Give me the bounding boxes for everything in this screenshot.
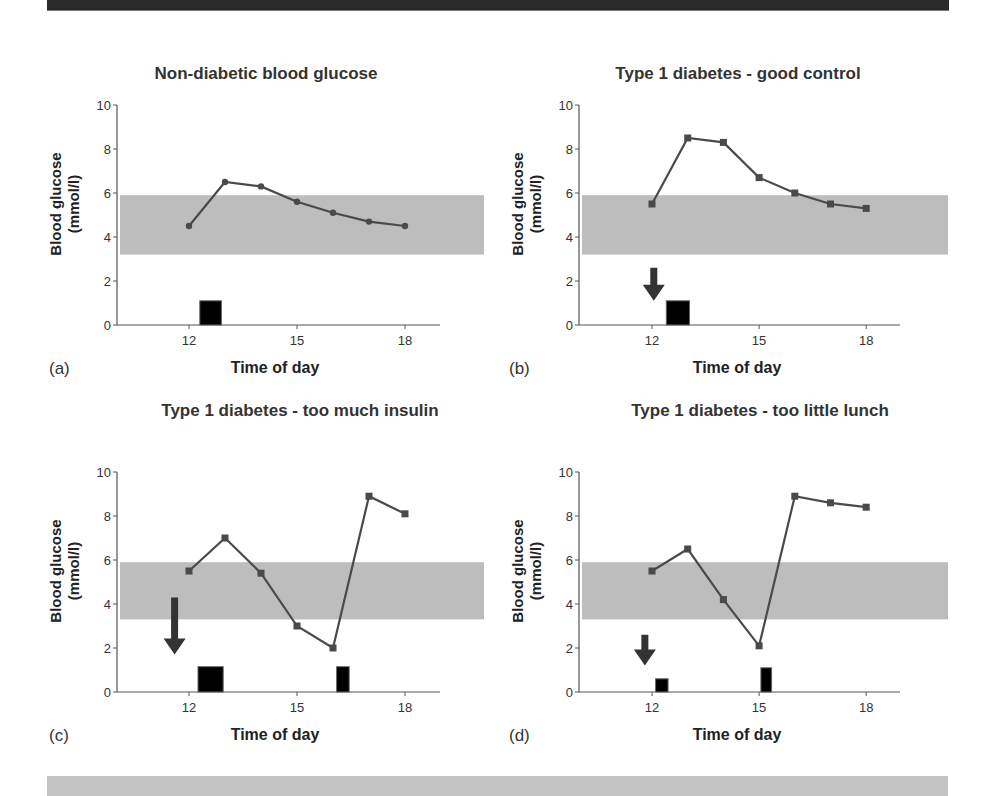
x-tick-label: 15: [290, 700, 304, 715]
y-tick-label: 4: [566, 597, 573, 612]
data-point: [649, 201, 656, 208]
meal-bar: [656, 679, 668, 692]
data-point: [222, 179, 228, 185]
y-tick-label: 0: [104, 318, 111, 333]
y-tick-label: 4: [104, 230, 111, 245]
plots-canvas: 0246810121518 0246810121518 024681012151…: [0, 0, 993, 796]
data-point: [186, 568, 193, 575]
meal-bar: [198, 667, 223, 692]
data-point: [649, 568, 656, 575]
chart-c: 0246810121518: [97, 465, 484, 716]
data-point: [294, 199, 300, 205]
x-tick-label: 12: [182, 700, 196, 715]
y-tick-label: 8: [104, 509, 111, 524]
insulin-arrow-icon: [643, 268, 665, 301]
data-point: [827, 201, 834, 208]
y-tick-label: 6: [104, 553, 111, 568]
y-tick-label: 8: [104, 142, 111, 157]
data-point: [402, 223, 408, 229]
x-tick-label: 18: [859, 333, 873, 348]
normal-range-band: [582, 562, 948, 619]
y-tick-label: 6: [104, 186, 111, 201]
y-tick-label: 10: [97, 465, 111, 480]
meal-bar: [761, 668, 772, 692]
y-tick-label: 2: [566, 274, 573, 289]
data-point: [294, 623, 301, 630]
data-point: [791, 190, 798, 197]
data-point: [684, 546, 691, 553]
y-tick-label: 10: [559, 465, 573, 480]
x-tick-label: 15: [752, 333, 766, 348]
y-tick-label: 2: [104, 274, 111, 289]
y-tick-label: 8: [566, 142, 573, 157]
x-tick-label: 18: [398, 700, 412, 715]
meal-bar: [666, 301, 689, 325]
data-point: [186, 223, 192, 229]
data-point: [756, 174, 763, 181]
data-point: [330, 645, 337, 652]
data-point: [366, 218, 372, 224]
data-point: [258, 183, 264, 189]
x-tick-label: 12: [645, 700, 659, 715]
y-tick-label: 4: [104, 597, 111, 612]
data-point: [863, 504, 870, 511]
insulin-arrow-icon: [634, 635, 656, 666]
chart-a: 0246810121518: [97, 98, 484, 349]
y-tick-label: 0: [566, 685, 573, 700]
data-point: [258, 570, 265, 577]
data-point: [222, 535, 229, 542]
chart-d: 0246810121518: [559, 465, 948, 716]
y-tick-label: 4: [566, 230, 573, 245]
data-point: [366, 493, 373, 500]
footer-band: [47, 776, 948, 796]
data-point: [684, 135, 691, 142]
y-tick-label: 10: [559, 98, 573, 113]
y-tick-label: 2: [566, 641, 573, 656]
data-point: [720, 139, 727, 146]
meal-bar: [200, 301, 222, 325]
data-point: [402, 510, 409, 517]
y-tick-label: 6: [566, 186, 573, 201]
chart-b: 0246810121518: [559, 98, 948, 349]
normal-range-band: [582, 195, 948, 254]
x-tick-label: 18: [859, 700, 873, 715]
y-tick-label: 10: [97, 98, 111, 113]
y-tick-label: 0: [104, 685, 111, 700]
meal-bar: [337, 667, 350, 692]
data-point: [330, 210, 336, 216]
x-tick-label: 15: [290, 333, 304, 348]
y-tick-label: 8: [566, 509, 573, 524]
data-point: [756, 642, 763, 649]
data-point: [863, 205, 870, 212]
x-tick-label: 15: [752, 700, 766, 715]
x-tick-label: 18: [398, 333, 412, 348]
y-tick-label: 2: [104, 641, 111, 656]
x-tick-label: 12: [182, 333, 196, 348]
data-point: [791, 493, 798, 500]
data-point: [720, 596, 727, 603]
data-point: [827, 499, 834, 506]
y-tick-label: 6: [566, 553, 573, 568]
x-tick-label: 12: [645, 333, 659, 348]
y-tick-label: 0: [566, 318, 573, 333]
